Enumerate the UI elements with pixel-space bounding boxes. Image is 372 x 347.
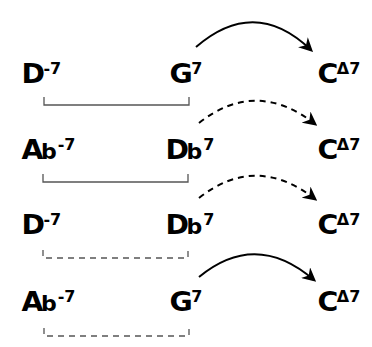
chord-V-row-3: Db7 (166, 211, 214, 238)
chord-root: G (169, 288, 191, 315)
chord-quality: -7 (43, 212, 61, 228)
chord-I-row-1: CΔ7 (318, 60, 360, 87)
resolution-arrow-row-1 (196, 22, 311, 50)
bracket-row-4 (44, 328, 189, 336)
bracket-row-2 (43, 174, 188, 182)
chord-quality: 7 (191, 289, 202, 305)
chord-V-row-1: G7 (170, 60, 202, 87)
chord-ii-row-3: D-7 (22, 211, 61, 238)
chord-root: A (22, 136, 43, 163)
chord-root: D (21, 211, 43, 238)
chord-root: G (169, 60, 191, 87)
chord-quality: -7 (58, 289, 76, 305)
chord-quality: 7 (203, 212, 214, 228)
chord-V-row-2: Db7 (166, 136, 214, 163)
bracket-row-3 (43, 250, 188, 258)
resolution-arrow-row-3 (199, 176, 315, 199)
chord-quality: Δ7 (337, 137, 361, 153)
chord-ii-row-1: D-7 (22, 60, 61, 87)
chord-accidental: b (41, 141, 57, 163)
chord-I-row-2: CΔ7 (318, 136, 360, 163)
resolution-arrow-row-2 (199, 101, 315, 124)
chord-V-row-4: G7 (170, 288, 202, 315)
chord-root: C (318, 136, 338, 163)
chord-ii-row-4: Ab-7 (22, 288, 75, 315)
chord-accidental: b (186, 216, 202, 238)
chord-quality: -7 (43, 61, 61, 77)
chord-quality: Δ7 (337, 212, 361, 228)
chord-progression-diagram: D-7 G7 CΔ7 Ab-7 Db7 CΔ7 D-7 Db7 CΔ7 Ab-7… (0, 0, 372, 347)
chord-root: C (318, 288, 338, 315)
chord-quality: 7 (191, 61, 202, 77)
chord-I-row-3: CΔ7 (318, 211, 360, 238)
chord-ii-row-2: Ab-7 (22, 136, 75, 163)
chord-root: A (22, 288, 43, 315)
chord-root: D (21, 60, 43, 87)
bracket-row-1 (44, 97, 189, 105)
chord-root: C (318, 60, 338, 87)
chord-root: D (165, 136, 187, 163)
chord-I-row-4: CΔ7 (318, 288, 360, 315)
chord-quality: -7 (58, 137, 76, 153)
chord-root: D (165, 211, 187, 238)
resolution-arrow-row-4 (199, 254, 314, 280)
chord-quality: Δ7 (337, 289, 361, 305)
chord-quality: 7 (203, 137, 214, 153)
chord-accidental: b (41, 293, 57, 315)
chord-quality: Δ7 (337, 61, 361, 77)
chord-accidental: b (186, 141, 202, 163)
chord-root: C (318, 211, 338, 238)
